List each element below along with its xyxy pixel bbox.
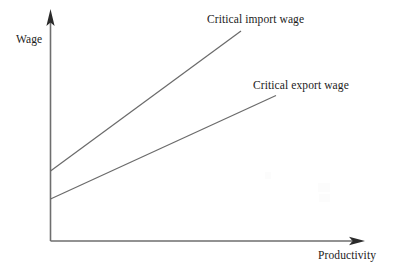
x-axis-title: Productivity bbox=[318, 249, 376, 261]
figure-canvas: Wage Productivity Critical import wage C… bbox=[0, 0, 394, 272]
y-axis-title: Wage bbox=[16, 33, 42, 45]
series-label-critical-import-wage: Critical import wage bbox=[207, 13, 304, 25]
critical-import-wage-line bbox=[51, 31, 242, 171]
critical-export-wage-line bbox=[51, 96, 277, 200]
diagram-svg bbox=[0, 0, 394, 272]
series-label-critical-export-wage: Critical export wage bbox=[253, 79, 349, 91]
